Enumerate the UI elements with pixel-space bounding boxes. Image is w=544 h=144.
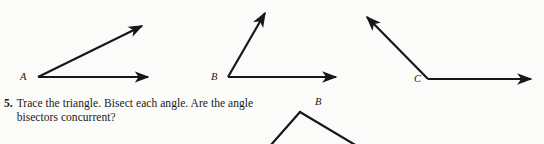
exercise-number: 5. <box>4 96 13 110</box>
angle-c-vertex-label: C <box>414 74 421 85</box>
angle-b-upper-ray <box>228 13 265 77</box>
angle-a-upper-ray <box>38 26 142 77</box>
partial-triangle-figure <box>270 112 357 144</box>
angle-c-upper-left-ray <box>367 17 428 79</box>
angle-b-vertex-label: B <box>211 72 217 83</box>
exercise-text: Trace the triangle. Bisect each angle. A… <box>17 96 254 124</box>
angle-a-vertex-label: A <box>20 72 26 83</box>
angle-b-figure <box>228 13 336 77</box>
angle-a-figure <box>38 26 148 77</box>
triangle-left-side <box>270 112 300 144</box>
scanned-textbook-page: A B C B 5. Trace the triangle. Bisect ea… <box>0 0 544 144</box>
angle-c-figure <box>367 17 531 79</box>
triangle-vertex-label: B <box>315 97 321 108</box>
triangle-right-side <box>300 112 357 144</box>
exercise-item: 5. Trace the triangle. Bisect each angle… <box>4 96 254 124</box>
